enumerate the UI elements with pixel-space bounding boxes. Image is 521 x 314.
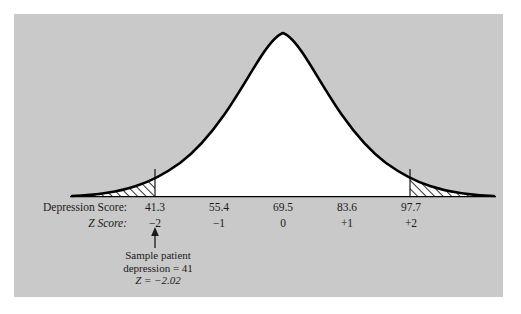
annotation-line-2: depression = 41 bbox=[98, 262, 218, 275]
z-tick-3: +1 bbox=[317, 216, 377, 231]
depression-tick-2: 69.5 bbox=[253, 200, 313, 215]
z-tick-0: −2 bbox=[125, 216, 185, 231]
z-tick-1: −1 bbox=[189, 216, 249, 231]
annotation-line-3-text: Z = −2.02 bbox=[135, 274, 181, 286]
curve-body-fill bbox=[70, 28, 496, 198]
depression-tick-1: 55.4 bbox=[189, 200, 249, 215]
right-tail-hatch bbox=[410, 28, 496, 198]
z-tick-4: +2 bbox=[381, 216, 441, 231]
z-score-label: Z Score: bbox=[88, 216, 127, 231]
z-score-row: Z Score: −2 −1 0 +1 +2 bbox=[0, 216, 521, 231]
left-tail-hatch bbox=[70, 28, 155, 198]
z-tick-2: 0 bbox=[253, 216, 313, 231]
depression-tick-0: 41.3 bbox=[125, 200, 185, 215]
depression-score-label: Depression Score: bbox=[43, 200, 127, 215]
depression-tick-4: 97.7 bbox=[381, 200, 441, 215]
normal-curve-plot bbox=[0, 0, 521, 314]
depression-tick-3: 83.6 bbox=[317, 200, 377, 215]
sample-patient-annotation: Sample patient depression = 41 Z = −2.02 bbox=[98, 249, 218, 287]
figure-container: Depression Score: 41.3 55.4 69.5 83.6 97… bbox=[0, 0, 521, 314]
annotation-line-3: Z = −2.02 bbox=[98, 274, 218, 287]
curve-area-group bbox=[70, 28, 496, 198]
z-score-label-text: Z Score: bbox=[88, 217, 127, 229]
depression-score-row: Depression Score: 41.3 55.4 69.5 83.6 97… bbox=[0, 200, 521, 215]
annotation-line-1: Sample patient bbox=[98, 249, 218, 262]
